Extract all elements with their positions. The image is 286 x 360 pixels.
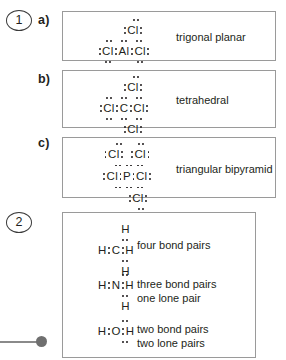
lone-pair-dots [106,38,112,44]
description-ch4-line1: four bond pairs [137,238,210,252]
lone-pair-dots [137,59,143,65]
atom-cl: Cl [107,171,118,183]
lone-pair-dots [136,116,142,122]
bond-pair-dots [122,293,128,299]
description-nh3-line1: three bond pairs [137,277,217,291]
lone-pair-dots [136,38,142,44]
lone-pair-dots [122,339,128,345]
atom-h: H [98,280,107,292]
atom-c: C [112,245,121,257]
lewis-structure-pcl5: Cl Cl Cl P [72,141,182,212]
atom-cl: Cl [133,103,144,115]
atom-cl: Cl [134,46,145,58]
lone-pair-dots [106,95,112,101]
bond-pair-dots [121,116,127,122]
atom-h: H [98,245,107,257]
atom-h: H [125,280,134,292]
bond-pair-dots [122,237,128,243]
lone-pair-dots [105,59,111,65]
lone-pair-dots [144,195,149,201]
atom-cl: Cl [127,124,138,136]
part-label-a: a) [38,13,50,27]
lone-pair-dots [106,116,112,122]
shape-label-a: trigonal planar [176,31,246,43]
lone-pair-dots [115,185,121,191]
bond-pair-dots [121,95,127,101]
lone-pair-dots [116,141,122,147]
atom-cl: Cl [135,149,146,161]
lone-pair-dots [133,17,139,23]
lone-pair-dots [133,74,139,80]
atom-p: P [123,171,131,183]
atom-h: H [98,326,107,338]
atom-cl: Cl [102,46,113,58]
lone-pair-dots [137,163,143,169]
part-label-b: b) [38,72,50,86]
question-number-2: 2 [6,212,32,233]
atom-h: H [126,326,135,338]
shape-label-b: tetrahedral [176,94,229,106]
lone-pair-dots [120,151,125,157]
lone-pair-dots [138,141,144,147]
lewis-structure-ccl4: Cl Cl C Cl [74,74,174,143]
atom-h: H [121,224,130,236]
atom-cl: Cl [136,171,147,183]
atom-h: H [121,301,130,313]
shape-label-c: triangular bipyramid [176,163,273,175]
bond-pair-dots [139,27,144,33]
atom-n: N [112,280,121,292]
lone-pair-dots [147,173,152,179]
lone-pair-dots [139,84,144,90]
lone-pair-dots [146,151,151,157]
lone-pair-dots [122,272,128,278]
description-nh3-line2: one lone pair [137,291,201,305]
atom-cl: Cl [127,82,138,94]
bond-pair-dots [126,163,132,169]
lone-pair-dots [146,48,151,54]
lone-pair-dots [136,95,142,101]
bond-pair-dots [121,38,127,44]
lone-pair-dots [122,318,128,324]
description-h2o-line2: two lone pairs [137,336,205,350]
part-label-c: c) [38,136,50,150]
atom-h: H [125,245,134,257]
bond-pair-dots [122,258,128,264]
question-number-1: 1 [6,10,32,31]
bond-pair-dots [126,185,132,191]
atom-cl: Cl [127,25,138,37]
atom-cl: Cl [132,193,143,205]
lewis-structure-alcl3: Cl Cl Al Cl [74,17,174,65]
atom-cl: Cl [108,149,119,161]
atom-c: C [120,103,129,115]
lone-pair-dots [145,105,150,111]
atom-o: O [111,326,120,338]
atom-cl: Cl [103,103,114,115]
atom-al: Al [119,46,130,58]
lone-pair-dots [137,185,143,191]
page-marker-dot-icon [36,336,47,347]
description-h2o-line1: two bond pairs [137,322,209,336]
lone-pair-dots [139,126,144,132]
lone-pair-dots [115,163,121,169]
